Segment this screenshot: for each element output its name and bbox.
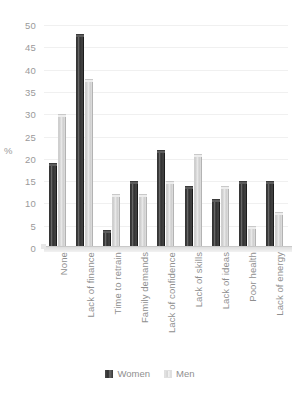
bar-front-face <box>275 215 283 248</box>
y-tick-20: 20 <box>25 153 36 164</box>
bar-front-face <box>212 202 220 248</box>
y-tick-50: 50 <box>25 20 36 31</box>
bar-front-face <box>221 189 229 248</box>
bar-front-face <box>185 189 193 248</box>
y-tick-15: 15 <box>25 176 36 187</box>
y-tick-10: 10 <box>25 198 36 209</box>
bar-men-7[interactable] <box>248 226 256 248</box>
bar-front-face <box>112 197 120 248</box>
y-tick-30: 30 <box>25 109 36 120</box>
y-tick-35: 35 <box>25 86 36 97</box>
x-axis-label-7: Poor health <box>247 252 258 302</box>
x-axis-label-1: Lack of finance <box>85 252 96 317</box>
bar-group <box>207 25 234 248</box>
x-label-cell: Lack of ideas <box>207 252 234 352</box>
bar-front-face <box>49 166 57 248</box>
bar-women-1[interactable] <box>76 34 84 248</box>
legend-label-men: Men <box>176 368 194 379</box>
bar-front-face <box>166 184 174 248</box>
bar-women-7[interactable] <box>239 181 247 248</box>
x-axis-label-6: Lack of ideas <box>220 252 231 309</box>
bar-men-6[interactable] <box>221 186 229 248</box>
x-label-cell: Lack of skills <box>180 252 207 352</box>
bar-women-6[interactable] <box>212 199 220 248</box>
bar-group <box>98 25 125 248</box>
bar-group <box>44 25 71 248</box>
x-axis-label-4: Lack of confidence <box>166 252 177 333</box>
bar-group <box>125 25 152 248</box>
y-tick-40: 40 <box>25 64 36 75</box>
bar-women-8[interactable] <box>266 181 274 248</box>
legend-swatch-women <box>105 370 113 378</box>
chart-legend: WomenMen <box>0 368 300 379</box>
bar-women-3[interactable] <box>130 181 138 248</box>
x-axis-label-5: Lack of skills <box>193 252 204 307</box>
x-label-cell: None <box>44 252 71 352</box>
x-axis-label-3: Family demands <box>139 252 150 323</box>
x-axis-labels: NoneLack of financeTime to retrainFamily… <box>44 252 288 352</box>
legend-swatch-men <box>164 370 172 378</box>
x-label-cell: Family demands <box>125 252 152 352</box>
y-tick-5: 5 <box>31 220 36 231</box>
bar-men-8[interactable] <box>275 212 283 248</box>
bar-front-face <box>76 37 84 248</box>
y-tick-25: 25 <box>25 131 36 142</box>
bar-front-face <box>194 157 202 248</box>
x-axis-label-0: None <box>58 252 69 275</box>
bar-front-face <box>157 153 165 248</box>
bar-group <box>180 25 207 248</box>
plot-area <box>44 25 288 248</box>
y-tick-45: 45 <box>25 42 36 53</box>
bar-men-4[interactable] <box>166 181 174 248</box>
bar-groups <box>44 25 288 248</box>
y-axis: % 50454035302520151050 <box>0 0 44 273</box>
x-label-cell: Time to retrain <box>98 252 125 352</box>
bar-women-5[interactable] <box>185 186 193 248</box>
x-label-cell: Lack of confidence <box>152 252 179 352</box>
legend-item-men[interactable]: Men <box>164 368 194 379</box>
y-tick-0: 0 <box>31 243 36 254</box>
bar-men-2[interactable] <box>112 194 120 248</box>
bar-front-face <box>266 184 274 248</box>
bar-front-face <box>239 184 247 248</box>
bar-front-face <box>58 117 66 248</box>
bar-men-0[interactable] <box>58 114 66 248</box>
y-axis-title: % <box>4 145 12 156</box>
legend-label-women: Women <box>117 368 150 379</box>
x-label-cell: Lack of finance <box>71 252 98 352</box>
bar-group <box>152 25 179 248</box>
x-axis-label-2: Time to retrain <box>112 252 123 314</box>
bar-group <box>234 25 261 248</box>
x-axis-label-8: Lack of energy <box>274 252 285 316</box>
bar-women-4[interactable] <box>157 150 165 248</box>
bar-chart: % 50454035302520151050 NoneLack of finan… <box>0 0 300 398</box>
bar-group <box>261 25 288 248</box>
bar-front-face <box>139 197 147 248</box>
x-label-cell: Poor health <box>234 252 261 352</box>
bar-front-face <box>130 184 138 248</box>
bar-front-face <box>85 82 93 248</box>
bar-women-0[interactable] <box>49 163 57 248</box>
bar-group <box>71 25 98 248</box>
x-label-cell: Lack of energy <box>261 252 288 352</box>
bar-men-1[interactable] <box>85 79 93 248</box>
bar-men-3[interactable] <box>139 194 147 248</box>
legend-item-women[interactable]: Women <box>105 368 150 379</box>
bar-men-5[interactable] <box>194 154 202 248</box>
